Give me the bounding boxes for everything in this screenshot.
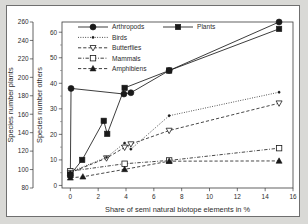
datapoint-arthropods-2 <box>121 91 127 97</box>
series-line-butterflies <box>70 103 279 172</box>
x-tick-label-4: 4 <box>124 193 128 200</box>
y-inner-tick-label-50: 50 <box>50 54 58 61</box>
legend-marker-arthropods <box>90 24 96 30</box>
legend-marker-mammals <box>90 56 95 61</box>
y-axis-outer-title: Species number plants <box>6 67 15 142</box>
x-tick-label-16: 16 <box>289 193 297 200</box>
datapoint-plants-2 <box>101 118 106 123</box>
y-outer-tick-label-220: 220 <box>18 55 29 62</box>
y-outer-tick-label-100: 100 <box>18 166 29 173</box>
legend-marker-plants <box>175 24 180 29</box>
y-outer-tick-label-140: 140 <box>18 129 29 136</box>
datapoint-birds-3 <box>130 148 132 150</box>
chart-svg: 0102030405060Species number others801001… <box>0 0 308 224</box>
datapoint-arthropods-4 <box>166 68 172 74</box>
legend-marker-birds <box>92 36 94 38</box>
datapoint-amphibiens-2 <box>122 166 128 171</box>
legend-label-birds: Birds <box>112 34 128 41</box>
x-tick-label-12: 12 <box>234 193 242 200</box>
datapoint-plants-6 <box>276 26 281 31</box>
legend-label-mammals: Mammals <box>112 55 141 62</box>
legend-label-butterflies: Butterflies <box>112 44 142 51</box>
x-axis-title: Share of semi natural biotope elements i… <box>105 205 250 214</box>
y-outer-tick-label-260: 260 <box>18 18 29 25</box>
y-inner-tick-label-10: 10 <box>50 156 58 163</box>
datapoint-arthropods-1 <box>68 85 74 91</box>
datapoint-birds-2 <box>123 142 125 144</box>
datapoint-amphibiens-1 <box>80 174 86 179</box>
y-outer-tick-label-180: 180 <box>18 92 29 99</box>
plot-panel-border <box>62 22 293 188</box>
y-inner-tick-label-40: 40 <box>50 80 58 87</box>
datapoint-plants-1 <box>79 157 84 162</box>
datapoint-birds-1 <box>105 156 107 158</box>
datapoint-birds-5 <box>278 91 280 93</box>
legend-label-arthropods: Arthropods <box>112 23 145 31</box>
figure-container: 0102030405060Species number others801001… <box>0 0 308 224</box>
datapoint-arthropods-0 <box>67 172 73 178</box>
y-outer-tick-label-160: 160 <box>18 111 29 118</box>
datapoint-plants-3 <box>105 131 110 136</box>
series-line-amphibiens <box>70 161 279 178</box>
y-axis-inner-title: Species number others <box>35 67 44 143</box>
x-tick-label-10: 10 <box>206 193 214 200</box>
datapoint-mammals-3 <box>276 145 281 150</box>
datapoint-plants-4 <box>122 85 127 90</box>
datapoint-arthropods-3 <box>128 90 134 96</box>
y-inner-tick-label-30: 30 <box>50 105 58 112</box>
y-outer-tick-label-80: 80 <box>21 184 29 191</box>
x-tick-label-0: 0 <box>69 193 73 200</box>
x-tick-label-8: 8 <box>180 193 184 200</box>
datapoint-butterflies-2 <box>122 145 128 150</box>
datapoint-mammals-1 <box>122 161 127 166</box>
y-outer-tick-label-200: 200 <box>18 74 29 81</box>
x-tick-label-2: 2 <box>96 193 100 200</box>
y-inner-tick-label-20: 20 <box>50 131 58 138</box>
y-outer-tick-label-120: 120 <box>18 147 29 154</box>
y-inner-tick-label-0: 0 <box>53 182 57 189</box>
legend-label-plants: Plants <box>197 23 216 30</box>
series-line-plants <box>70 29 279 175</box>
x-tick-label-14: 14 <box>262 193 270 200</box>
y-outer-tick-label-240: 240 <box>18 37 29 44</box>
legend-label-amphibiens: Amphibiens <box>112 65 147 73</box>
y-inner-tick-label-60: 60 <box>50 29 58 36</box>
datapoint-birds-4 <box>168 115 170 117</box>
datapoint-butterflies-3 <box>128 142 134 147</box>
datapoint-arthropods-5 <box>276 19 282 25</box>
datapoint-amphibiens-4 <box>276 158 282 163</box>
x-tick-label-6: 6 <box>152 193 156 200</box>
